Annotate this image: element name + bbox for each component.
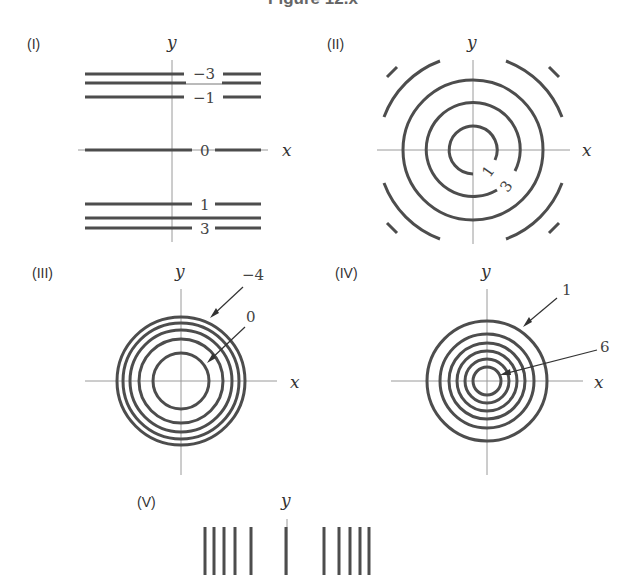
level-label: 3 (200, 220, 210, 238)
panel-iv-x-label: x (594, 372, 604, 392)
contour-arc (506, 61, 562, 117)
panel-iii-y-label: y (174, 261, 185, 281)
contour-arc (506, 183, 562, 239)
contour-dash (387, 67, 397, 77)
level-label: −3 (193, 65, 215, 83)
contour-dash (549, 223, 559, 233)
panel-iii-label: (III) (32, 265, 53, 281)
panel-i-label: (I) (27, 36, 40, 52)
level-label: −1 (193, 89, 215, 107)
contour-dash (387, 223, 397, 233)
level-label: −4 (242, 266, 264, 284)
level-label: 1 (200, 196, 210, 214)
level-label: 6 (600, 338, 610, 356)
level-label: 0 (200, 142, 210, 160)
panel-ii-label: (II) (327, 36, 344, 52)
level-label: 1 (478, 162, 498, 180)
arrow (504, 350, 597, 374)
panel-ii: (II) y x 1 3 (327, 32, 592, 244)
panel-i-y-label: y (166, 32, 177, 52)
panel-v-label: (V) (137, 494, 156, 510)
panel-v: (V) y (137, 490, 369, 575)
level-label: 1 (562, 281, 572, 299)
panel-v-y-label: y (280, 490, 291, 510)
level-label: 0 (246, 308, 256, 326)
panel-ii-y-label: y (466, 32, 477, 52)
arrowhead-icon (523, 317, 532, 327)
contour-arc (384, 61, 440, 117)
panel-i-x-label: x (282, 140, 292, 160)
contour-dash (549, 67, 559, 77)
panel-iii: (III) y x −4 0 (32, 261, 300, 475)
panel-iv: (IV) y x 1 6 (335, 261, 610, 475)
panel-iv-label: (IV) (335, 265, 358, 281)
panel-ii-x-label: x (582, 140, 592, 160)
contour-figure: (I) y x −3 −1 0 1 3 (II) y x (0, 0, 626, 575)
panel-iii-x-label: x (290, 372, 300, 392)
level-label: 3 (496, 177, 516, 195)
panel-iv-y-label: y (480, 261, 491, 281)
arrowhead-icon (210, 308, 219, 318)
panel-i: (I) y x −3 −1 0 1 3 (27, 32, 292, 242)
contour-arc (384, 183, 440, 239)
